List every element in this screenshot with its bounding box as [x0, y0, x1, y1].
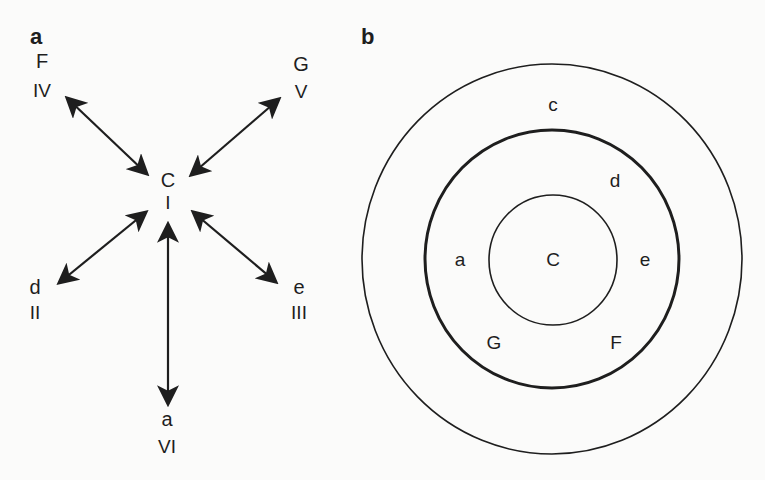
node-e-roman: III: [291, 302, 307, 323]
ring-label-g: G: [487, 332, 502, 353]
node-f-roman: IV: [33, 80, 51, 101]
ring-label-d: d: [610, 170, 621, 191]
figure: a C I F IV G V d II e III a VI b c d a: [0, 0, 765, 480]
ring-label-c: c: [548, 94, 558, 115]
arrow-c-e: [193, 212, 276, 282]
node-f-letter: F: [36, 50, 48, 72]
ring-label-f: F: [610, 332, 622, 353]
node-e-letter: e: [293, 276, 304, 298]
node-a-letter: a: [161, 408, 173, 430]
node-g-roman: V: [295, 81, 308, 102]
node-center-letter: C: [161, 169, 175, 191]
node-a-roman: VI: [158, 436, 176, 457]
arrow-c-g: [191, 99, 279, 175]
ring-label-e: e: [640, 249, 651, 270]
panel-b: b c d a C e G F: [361, 24, 742, 454]
arrow-c-f: [67, 98, 147, 174]
ring-label-a: a: [455, 249, 466, 270]
node-g-letter: G: [293, 53, 309, 75]
ring-label-center-c: C: [546, 249, 560, 270]
panel-a-label: a: [30, 24, 43, 49]
node-d-roman: II: [30, 302, 41, 323]
node-center-roman: I: [165, 192, 170, 213]
node-d-letter: d: [29, 276, 40, 298]
arrow-c-d: [59, 212, 146, 283]
panel-b-label: b: [361, 24, 374, 49]
panel-a: a C I F IV G V d II e III a VI: [29, 24, 308, 457]
